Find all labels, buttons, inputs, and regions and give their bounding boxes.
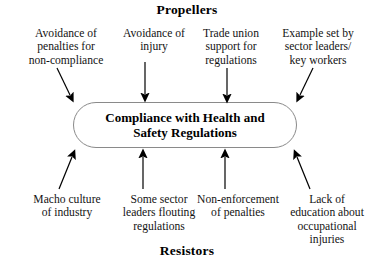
resistor-label-3: Non-enforcement of penalties (186, 193, 290, 220)
propeller-label-1: Avoidance of penalties for non-complianc… (8, 27, 124, 67)
central-outcome-box: Compliance with Health and Safety Regula… (73, 102, 297, 148)
central-outcome-label: Compliance with Health and Safety Regula… (95, 110, 274, 141)
resistor-label-4: Lack of education about occupational inj… (280, 193, 374, 247)
propeller-arrow-1 (57, 68, 70, 95)
propeller-label-4: Example set by sector leaders/ key worke… (266, 27, 370, 67)
force-field-diagram: Propellers Avoidance of penalties for no… (0, 0, 374, 264)
propeller-label-3: Trade union support for regulations (188, 27, 274, 67)
resistor-arrow-1 (59, 157, 72, 189)
resistor-arrow-4 (297, 157, 310, 189)
propeller-arrow-4 (300, 68, 313, 95)
resistors-heading: Resistors (0, 243, 374, 259)
propeller-label-2: Avoidance of injury (108, 27, 200, 54)
resistor-arrows (59, 157, 310, 189)
propellers-heading: Propellers (0, 2, 374, 18)
